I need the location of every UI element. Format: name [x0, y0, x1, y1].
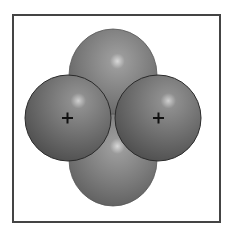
orbital-diagram [0, 0, 229, 227]
